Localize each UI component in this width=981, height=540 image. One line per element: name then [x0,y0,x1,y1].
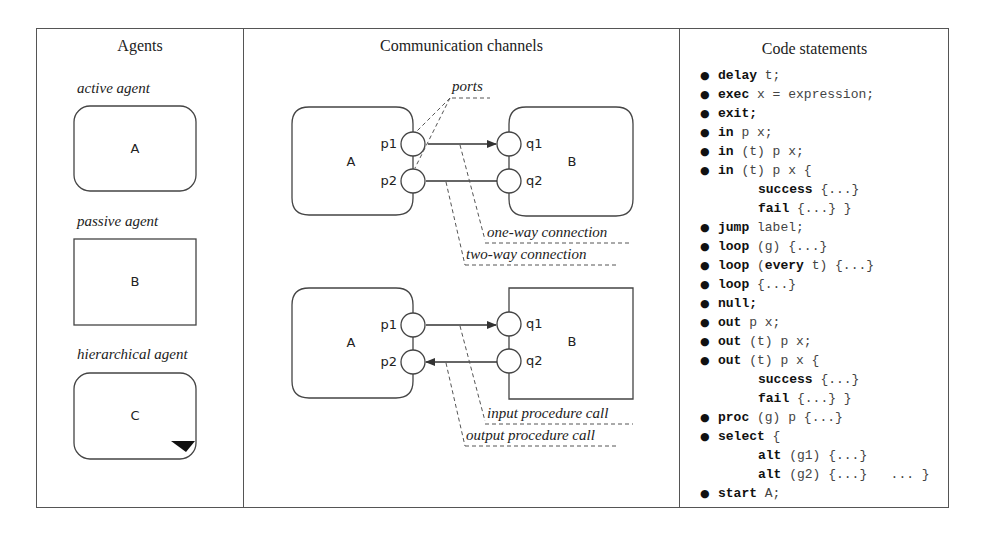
code-statement: ●proc (g) p {...} [700,408,930,427]
code-arguments: (g) {...} [749,239,827,254]
bullet-icon: ● [700,104,718,123]
code-statement: ●start A; [700,484,930,503]
code-keyword: out [718,353,741,368]
code-keyword: success [758,372,813,387]
code-statement: ●null; [700,294,930,313]
svg-text:B: B [568,154,577,169]
code-arguments: label; [749,220,804,235]
code-keyword: delay [718,68,757,83]
bullet-icon: ● [700,218,718,237]
code-statement: fail {...} } [700,389,930,408]
bullet-icon: ● [700,313,718,332]
svg-text:A: A [347,335,356,350]
code-arguments: (t) p x; [734,144,804,159]
code-statement: ●loop (every t) {...} [700,256,930,275]
code-statement: ●out p x; [700,313,930,332]
active-agent-box: A [74,106,196,191]
svg-text:p1: p1 [380,136,397,151]
code-statement: ●exit; [700,104,930,123]
code-statement: ●in p x; [700,123,930,142]
code-statement: ●in (t) p x; [700,142,930,161]
port-q1-icon [497,312,521,336]
code-arguments: ( [749,258,765,273]
port-p2-icon [401,169,425,193]
code-keyword: exit; [718,106,757,121]
code-keyword: select [718,429,765,444]
bullet-icon: ● [700,237,718,256]
code-statement: ●delay t; [700,66,930,85]
code-keyword: jump [718,220,749,235]
code-keyword: every [765,258,804,273]
code-statement-list: ●delay t;●exec x = expression;●exit;●in … [700,66,930,503]
port-q2-icon [497,349,521,373]
code-keyword: fail [758,391,789,406]
passive-agent-box: B [74,239,196,325]
code-statement: ●jump label; [700,218,930,237]
code-keyword: start [718,486,757,501]
code-arguments: {...} } [789,201,851,216]
port-p1-icon [401,313,425,337]
code-arguments: {...} [749,277,796,292]
bullet-icon: ● [700,142,718,161]
code-arguments: t; [757,68,780,83]
bottom-channel-diagram: A p1 p2 B q1 q2 [292,288,633,446]
svg-text:q1: q1 [526,316,543,331]
code-keyword: proc [718,410,749,425]
code-keyword: in [718,163,734,178]
code-statement: fail {...} } [700,199,930,218]
code-keyword: in [718,125,734,140]
hierarchical-agent-box: C [74,373,196,459]
svg-text:B: B [568,334,577,349]
bullet-icon: ● [700,66,718,85]
bullet-icon: ● [700,408,718,427]
code-keyword: fail [758,201,789,216]
code-keyword: out [718,315,741,330]
code-keyword: out [718,334,741,349]
code-arguments: {...} [813,182,860,197]
code-keyword: null; [718,296,757,311]
svg-text:q1: q1 [526,136,543,151]
port-q1-icon [497,132,521,156]
code-keyword: in [718,144,734,159]
code-statement: alt (g1) {...} [700,446,930,465]
code-arguments: (t) p x; [741,334,811,349]
code-keyword: loop [718,239,749,254]
svg-text:p1: p1 [380,317,397,332]
passive-agent-letter: B [131,274,140,289]
port-p1-icon [401,132,425,156]
active-agent-letter: A [131,141,140,156]
code-statement: success {...} [700,370,930,389]
code-statement: ●exec x = expression; [700,85,930,104]
code-keyword: alt [758,448,781,463]
code-arguments: {...} } [789,391,851,406]
code-keyword: success [758,182,813,197]
code-arguments: (g2) {...} ... } [781,467,929,482]
code-arguments: x = expression; [749,87,874,102]
port-q2-icon [497,169,521,193]
code-keyword: exec [718,87,749,102]
bullet-icon: ● [700,85,718,104]
code-arguments: (g1) {...} [781,448,867,463]
svg-text:A: A [347,154,356,169]
code-arguments: {...} [813,372,860,387]
bullet-icon: ● [700,332,718,351]
bullet-icon: ● [700,161,718,180]
hierarchy-triangle-icon [171,441,195,452]
port-p2-icon [401,350,425,374]
code-arguments: A; [757,486,780,501]
code-arguments: (t) p x { [734,163,812,178]
code-keyword: loop [718,258,749,273]
code-statement: ●loop {...} [700,275,930,294]
top-channel-diagram: A p1 p2 B q1 q2 [292,98,633,265]
svg-text:q2: q2 [526,353,543,368]
code-statement: success {...} [700,180,930,199]
bullet-icon: ● [700,294,718,313]
code-keyword: alt [758,467,781,482]
hierarchical-agent-letter: C [130,408,139,423]
code-keyword: loop [718,277,749,292]
code-arguments: t) {...} [804,258,874,273]
code-statement: ●out (t) p x { [700,351,930,370]
bullet-icon: ● [700,427,718,446]
code-arguments: (t) p x { [741,353,819,368]
svg-text:q2: q2 [526,173,543,188]
